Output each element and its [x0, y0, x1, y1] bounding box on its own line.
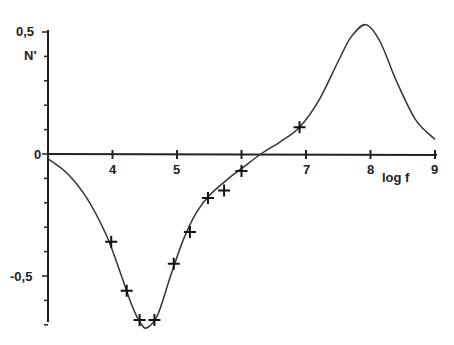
x-tick-label-4: 4 [109, 162, 117, 177]
x-tick-label-7: 7 [303, 162, 310, 177]
x-tick-label-8: 8 [367, 162, 374, 177]
y-tick-label-0: 0 [34, 147, 41, 162]
data-point-marker [121, 285, 133, 297]
y-axis-label: N' [24, 48, 36, 63]
y-tick-label-neg-0.5: -0,5 [10, 269, 32, 284]
y-tick-label-0.5: 0,5 [16, 24, 34, 39]
x-tick-label-9: 9 [431, 162, 438, 177]
data-point-marker [168, 258, 180, 270]
data-point-marker [236, 165, 248, 177]
data-point-marker [134, 314, 146, 326]
x-axis-label: log f [382, 170, 410, 185]
data-markers [105, 121, 305, 326]
x-tick-label-5: 5 [173, 162, 180, 177]
data-point-marker [184, 226, 196, 238]
data-point-marker [148, 314, 160, 326]
chart: 0,5 N' 0 -0,5 4 5 7 8 9 log f [0, 0, 454, 345]
